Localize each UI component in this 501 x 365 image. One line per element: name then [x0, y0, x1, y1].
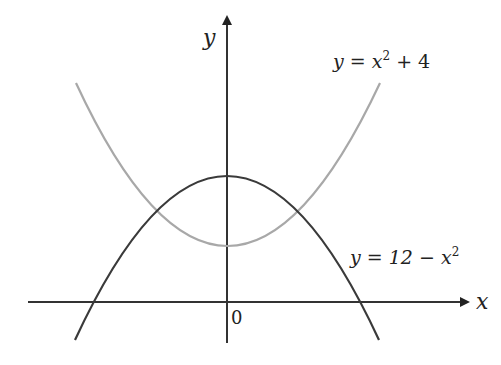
origin-label: 0 [231, 307, 242, 328]
lower-curve-equation: y = 12 − x2 [349, 245, 459, 268]
upper-eq-rhs: + 4 [390, 50, 430, 72]
lower-eq-exp: 2 [452, 245, 460, 259]
x-axis-label: x [476, 289, 489, 314]
lower-eq-lhs: y = 12 − x [349, 246, 452, 268]
parabola-diagram: y x 0 y = x2 + 4 y = 12 − x2 [0, 0, 501, 365]
upper-curve-equation: y = x2 + 4 [332, 49, 430, 72]
upper-eq-lhs: y = x [332, 50, 383, 72]
y-axis-label: y [202, 25, 216, 50]
upper-eq-exp: 2 [382, 49, 390, 63]
